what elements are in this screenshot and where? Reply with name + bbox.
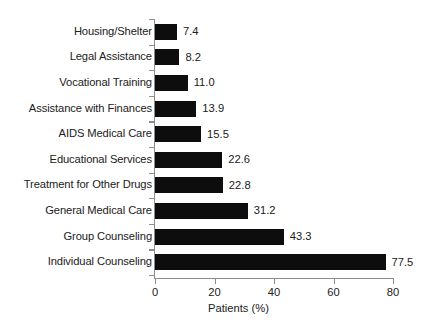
bar-row: General Medical Care31.2 (0, 198, 431, 224)
x-axis-tick (274, 279, 275, 284)
x-axis-tick-label: 40 (268, 287, 280, 298)
bar-row: Assistance with Finances13.9 (0, 96, 431, 122)
bar-wrapper: 13.9 (155, 101, 224, 117)
x-axis-title-label: Patients (%) (208, 303, 269, 314)
bar-category-label: Vocational Training (59, 77, 152, 88)
y-axis-tick (149, 275, 154, 276)
bar-row: Housing/Shelter7.4 (0, 19, 431, 45)
x-axis-tick-label: 20 (208, 287, 220, 298)
bar-category-label: AIDS Medical Care (59, 129, 152, 140)
y-axis-tick (149, 96, 154, 97)
bar-wrapper: 15.5 (155, 126, 229, 142)
bar-wrapper: 43.3 (155, 229, 312, 245)
bar-wrapper: 11.0 (155, 75, 215, 91)
x-axis-tick (334, 279, 335, 284)
bar-category-label: Assistance with Finances (29, 103, 152, 114)
bar-category-label: Housing/Shelter (74, 26, 152, 37)
bar-value-label: 13.9 (202, 103, 224, 114)
y-axis-tick (149, 19, 154, 20)
bar-value-label: 11.0 (194, 77, 215, 88)
bar (155, 203, 248, 219)
bar-value-label: 22.6 (228, 154, 250, 165)
bar-value-label: 22.8 (229, 180, 251, 191)
bar (155, 152, 222, 168)
bar (155, 254, 386, 270)
x-axis-tick-label: 80 (387, 287, 399, 298)
y-axis-tick (149, 147, 154, 148)
x-axis-tick (215, 279, 216, 284)
bar-row: Treatment for Other Drugs22.8 (0, 173, 431, 199)
bar-category-label: Educational Services (50, 154, 152, 165)
bar-row: Individual Counseling77.5 (0, 249, 431, 275)
y-axis-tick (149, 70, 154, 71)
y-axis-tick (149, 45, 154, 46)
bar-wrapper: 77.5 (155, 254, 413, 270)
x-axis-tick-label: 60 (327, 287, 339, 298)
bar-category-label: Group Counseling (63, 231, 152, 242)
bar-wrapper: 31.2 (155, 203, 276, 219)
bar-wrapper: 7.4 (155, 24, 199, 40)
bar-value-label: 7.4 (183, 26, 199, 37)
bar-row: Legal Assistance8.2 (0, 45, 431, 71)
bar (155, 75, 188, 91)
bar-row: Group Counseling43.3 (0, 224, 431, 250)
bar-value-label: 15.5 (207, 129, 229, 140)
bar-wrapper: 22.8 (155, 177, 251, 193)
bar-category-label: Treatment for Other Drugs (24, 180, 152, 191)
bar-value-label: 77.5 (392, 257, 414, 268)
x-axis-tick (393, 279, 394, 284)
y-axis-tick (149, 224, 154, 225)
y-axis-tick (149, 198, 154, 199)
bar-wrapper: 22.6 (155, 152, 250, 168)
bar-category-label: General Medical Care (45, 205, 152, 216)
bar (155, 49, 179, 65)
bar-row: Vocational Training11.0 (0, 70, 431, 96)
bar-value-label: 43.3 (290, 231, 312, 242)
bar (155, 126, 201, 142)
y-axis-tick (149, 173, 154, 174)
y-axis-tick (149, 121, 154, 122)
x-axis-title: Patients (%) (0, 303, 431, 314)
bar (155, 229, 284, 245)
plot-area: Housing/Shelter7.4Legal Assistance8.2Voc… (0, 0, 431, 282)
bar-category-label: Legal Assistance (70, 52, 152, 63)
bar-wrapper: 8.2 (155, 49, 201, 65)
bar-category-label: Individual Counseling (48, 257, 152, 268)
x-axis-tick (155, 279, 156, 284)
bar-value-label: 31.2 (254, 205, 276, 216)
bar-value-label: 8.2 (185, 52, 201, 63)
bar-row: AIDS Medical Care15.5 (0, 121, 431, 147)
bar (155, 177, 223, 193)
bar-row: Educational Services22.6 (0, 147, 431, 173)
bar (155, 101, 196, 117)
x-axis-tick-label: 0 (152, 287, 158, 298)
bar-chart: Housing/Shelter7.4Legal Assistance8.2Voc… (0, 0, 431, 322)
bar (155, 24, 177, 40)
y-axis-tick (149, 249, 154, 250)
